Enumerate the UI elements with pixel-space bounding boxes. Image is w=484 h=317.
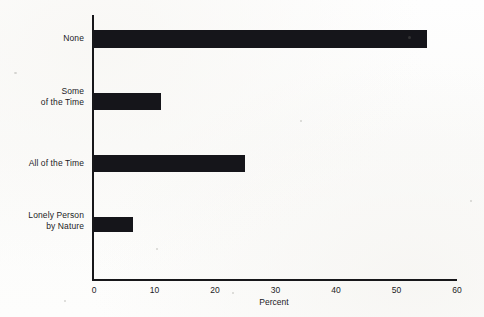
scan-speck <box>300 120 302 122</box>
category-label-line: of the Time <box>0 97 84 108</box>
x-tick-label: 0 <box>79 285 109 295</box>
scan-speck <box>14 72 17 74</box>
x-axis-line <box>92 279 457 281</box>
category-label-line: Some <box>0 86 84 97</box>
bar-all-of-the-time <box>94 155 245 172</box>
category-label-line: by Nature <box>0 221 84 232</box>
category-label-lonely-person-by-nature: Lonely Person by Nature <box>0 210 84 231</box>
x-axis-title: Percent <box>0 297 484 307</box>
x-tick-label: 30 <box>261 285 291 295</box>
bar-some-of-the-time <box>94 93 161 110</box>
scan-speck <box>156 248 158 250</box>
x-tick-label: 40 <box>321 285 351 295</box>
category-label-line: None <box>0 33 84 44</box>
category-label-line: Lonely Person <box>0 210 84 221</box>
scan-speck <box>232 292 234 294</box>
y-axis-line <box>92 15 94 281</box>
category-label-none: None <box>0 33 84 44</box>
bar-none <box>94 30 427 48</box>
scan-speck <box>470 200 472 202</box>
x-tick-label: 20 <box>200 285 230 295</box>
x-tick-label: 10 <box>140 285 170 295</box>
category-label-line: All of the Time <box>0 158 84 169</box>
x-tick-label: 60 <box>442 285 472 295</box>
x-axis-title-text: Percent <box>259 297 288 307</box>
plot-area: None Some of the Time All of the Time Lo… <box>0 0 484 317</box>
category-label-all-of-the-time: All of the Time <box>0 158 84 169</box>
x-tick-label: 50 <box>382 285 412 295</box>
bar-chart-figure: None Some of the Time All of the Time Lo… <box>0 0 484 317</box>
bar-lonely-person-by-nature <box>94 217 133 232</box>
category-label-some-of-the-time: Some of the Time <box>0 86 84 107</box>
